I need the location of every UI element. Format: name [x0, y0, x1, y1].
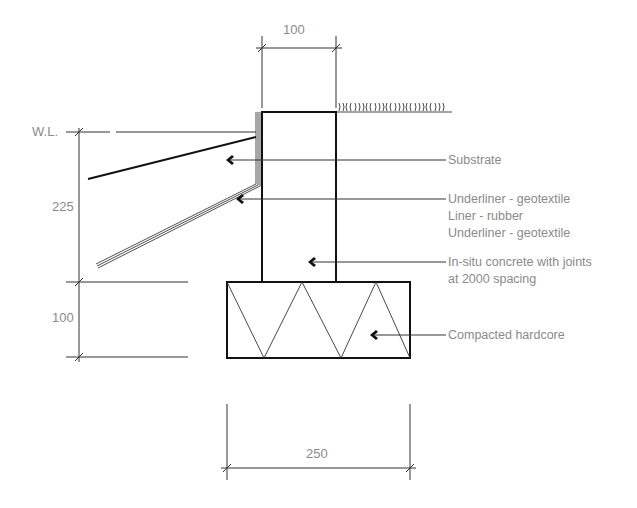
dimension-wall-width: [256, 36, 342, 108]
label-hardcore: Compacted hardcore: [448, 327, 565, 343]
concrete-wall: [262, 112, 336, 282]
ground-grass-hatch: [336, 103, 452, 112]
label-concrete-line1: In-situ concrete with joints: [448, 254, 592, 270]
dim-water-depth: 225: [52, 199, 74, 214]
dim-footing-width: 250: [306, 446, 328, 461]
label-underliner-bottom: Underliner - geotextile: [448, 225, 570, 241]
label-underliner-top: Underliner - geotextile: [448, 191, 570, 207]
dimension-left: [66, 128, 188, 362]
dim-footing-depth: 100: [52, 310, 74, 325]
liner-layers: [96, 112, 260, 268]
water-level-label: W.L.: [32, 124, 58, 139]
dim-wall-width: 100: [283, 22, 305, 37]
leader-arrowheads: [226, 155, 378, 340]
dimension-footing-width: [221, 404, 416, 480]
label-concrete-line2: at 2000 spacing: [448, 271, 536, 287]
hardcore-zigzag: [227, 282, 410, 358]
label-substrate: Substrate: [448, 152, 502, 168]
hardcore-footing: [227, 282, 410, 358]
label-liner: Liner - rubber: [448, 208, 523, 224]
